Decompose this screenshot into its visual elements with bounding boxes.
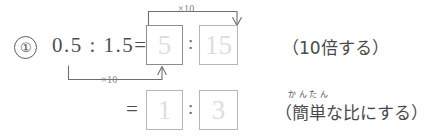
furigana-row2: かんたん (288, 88, 330, 99)
note-row2: （簡単な比にする） (275, 99, 428, 124)
answer-box-row1-left[interactable]: 5 (146, 25, 183, 65)
note-row1: （10倍する） (282, 34, 389, 59)
ratio-colon-row1: : (188, 32, 193, 54)
worksheet-canvas: ① 0.5 : 1.5= ×10 ×10 5 : 15 （10倍する） = 1 … (0, 0, 436, 140)
ratio-colon-row2: : (188, 97, 193, 119)
answer-box-row2-right[interactable]: 3 (199, 90, 238, 130)
equals-sign-row2: = (126, 97, 138, 122)
multiplier-label-bottom: ×10 (101, 74, 118, 85)
answer-box-row1-right[interactable]: 15 (199, 25, 238, 65)
answer-box-row2-left[interactable]: 1 (146, 90, 183, 130)
